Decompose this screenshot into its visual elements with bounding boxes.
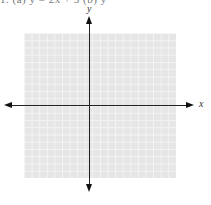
x-axis-left-arrow-icon (4, 102, 12, 108)
y-axis-down-arrow-icon (86, 184, 92, 192)
y-axis-up-arrow-icon (86, 16, 92, 24)
y-axis-label: y (87, 3, 91, 14)
x-axis-right-arrow-icon (186, 102, 194, 108)
y-axis (89, 18, 90, 186)
x-axis-label: x (199, 98, 203, 109)
x-axis (8, 105, 188, 106)
clipped-question-text: 1. (a) y = 2x + 3 (b) y (0, 0, 211, 5)
